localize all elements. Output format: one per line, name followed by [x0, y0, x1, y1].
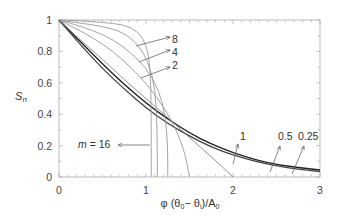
annotation-label: 2	[172, 59, 178, 71]
annotation-layer: 84210.50.25m = 16	[78, 33, 319, 174]
x-tick-label: 0	[56, 184, 62, 196]
annotation-label: 0.25	[298, 130, 319, 142]
plot-border	[59, 20, 320, 177]
series-m-2	[59, 20, 190, 177]
y-tick-label: 0.8	[37, 45, 52, 57]
annotation-label: 8	[172, 33, 178, 45]
x-tick-label: 3	[317, 184, 323, 196]
y-tick-label: 0.6	[37, 77, 52, 89]
plot-frame	[59, 20, 320, 177]
annotation-arrow	[270, 146, 280, 172]
y-tick-label: 0.4	[37, 108, 52, 120]
x-tick-label: 1	[143, 184, 149, 196]
series-m-8	[59, 20, 157, 177]
y-axis-label: Sn	[15, 90, 27, 104]
annotation-arrow	[136, 37, 170, 46]
y-tick-label: 0	[46, 171, 52, 183]
annotation-arrow	[139, 50, 170, 62]
annotation-label: 4	[172, 46, 178, 58]
annotation-label: m = 16	[78, 138, 111, 150]
annotation-label: 0.5	[278, 130, 293, 142]
y-tick-label: 0.2	[37, 140, 52, 152]
annotation-label: 1	[240, 130, 246, 142]
series-layer	[59, 20, 320, 177]
y-tick-label: 1	[46, 14, 52, 26]
chart: 012300.20.40.60.81 84210.50.25m = 16 Sn …	[0, 0, 338, 217]
x-axis-label: φ (θ0− θi)/A0	[160, 197, 219, 210]
series-m-16	[59, 20, 151, 177]
x-tick-label: 2	[230, 184, 236, 196]
